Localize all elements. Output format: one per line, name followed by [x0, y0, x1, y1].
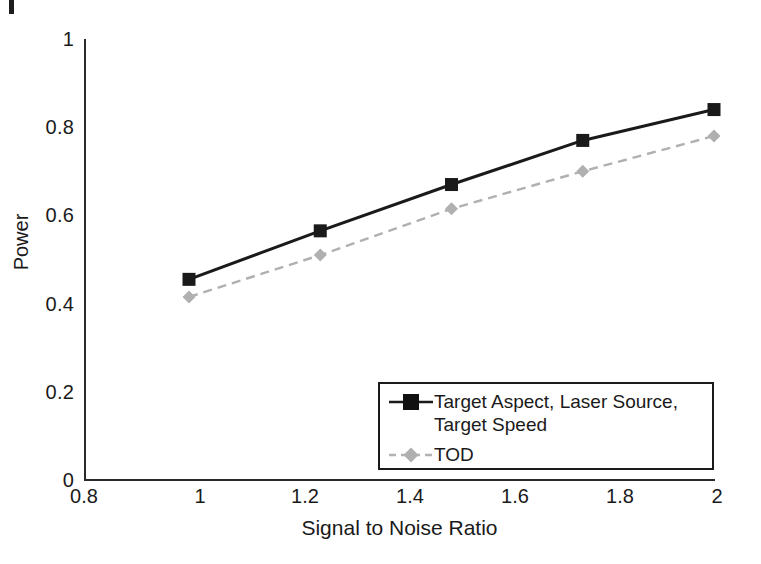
series-target-aspect	[183, 103, 721, 286]
series-line	[189, 110, 714, 280]
data-point-marker	[576, 165, 589, 178]
data-point-marker	[445, 202, 458, 215]
data-point-marker	[314, 224, 327, 237]
series-tod	[183, 130, 721, 304]
data-point-marker	[576, 134, 589, 147]
data-point-marker	[708, 103, 721, 116]
data-point-marker	[708, 130, 721, 143]
legend-label-tod: TOD	[434, 443, 474, 466]
legend-entry-target-aspect: Target Aspect, Laser Source, Target Spee…	[388, 390, 702, 436]
legend-label-target-aspect: Target Aspect, Laser Source, Target Spee…	[434, 390, 702, 436]
legend-key-square-icon	[388, 391, 434, 413]
legend-box: Target Aspect, Laser Source, Target Spee…	[378, 382, 714, 470]
data-point-marker	[445, 178, 458, 191]
legend-entry-tod: TOD	[388, 443, 474, 466]
data-point-marker	[183, 273, 196, 286]
legend-key-diamond-icon	[388, 444, 434, 466]
data-point-marker	[314, 249, 327, 262]
series-line	[189, 136, 714, 297]
data-point-marker	[183, 290, 196, 303]
chart-figure: 1 0.8 0.6 0.4 0.2 0 0.8 1 1.2 1.4 1.6 1.…	[0, 0, 761, 564]
plot-area	[0, 0, 761, 564]
